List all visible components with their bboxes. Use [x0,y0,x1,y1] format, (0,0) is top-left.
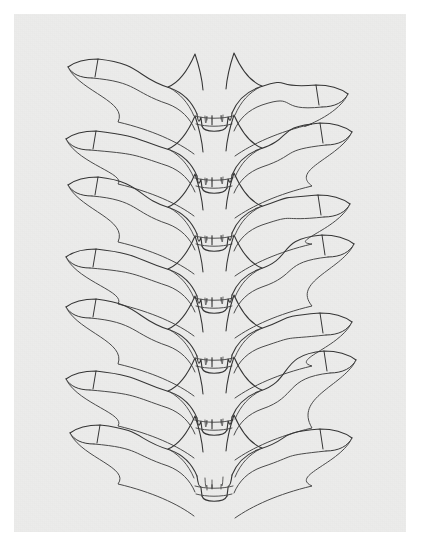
right-transverse-process-superior-edge [232,351,356,417]
left-transverse-process-tip-fold [93,299,96,317]
right-transverse-process-mid-edge [234,101,322,131]
left-transverse-process-inferior-edge [69,187,194,274]
spinous-process-ridge-left [205,116,207,123]
spinous-process-ridge-right [221,177,223,184]
vertebrae-group [66,53,356,518]
right-transverse-process-tip-fold [324,351,327,371]
spinous-process-ridge-left [205,178,207,185]
spinous-process-ridge-left [205,298,207,305]
left-transverse-process-tip-fold [95,177,98,195]
right-transverse-process-tip-fold [318,195,321,215]
right-transverse-process-inferior-edge [235,362,355,460]
right-transverse-process-inferior-edge [235,324,351,398]
left-transverse-process-inferior-edge [67,309,194,396]
right-transverse-process-superior-edge [232,235,354,295]
right-transverse-process-superior-edge [232,82,348,113]
right-transverse-process-tip-fold [320,123,323,143]
left-transverse-process-tip-fold [95,59,98,77]
scanned-paper-sheet [14,14,406,532]
right-transverse-process-mid-edge [234,373,330,435]
right-transverse-process-mid-edge [234,217,324,251]
left-transverse-process-superior-edge [66,131,197,176]
superior-articular-facet-left [168,54,203,90]
superior-articular-facet-right [226,357,262,393]
left-transverse-process-superior-edge [70,425,197,476]
spinous-process-right-wall [227,475,232,496]
right-transverse-process-tip-fold [322,235,325,255]
superior-articular-facet-left [168,116,203,152]
right-transverse-process-mid-edge [234,451,326,493]
right-transverse-process-inferior-edge [235,134,351,218]
superior-articular-facet-left [168,358,203,394]
left-transverse-process-superior-edge [66,249,197,296]
left-transverse-process-mid-edge [92,196,195,250]
left-transverse-process-mid-edge [94,444,195,492]
left-transverse-process-inferior-edge [69,69,194,154]
left-transverse-process-tip-fold [97,425,100,443]
right-transverse-process-superior-edge [232,123,352,175]
vertebral-column-drawing [14,14,406,532]
right-transverse-process-tip-fold [320,313,323,333]
spinous-process-ridge-right [221,115,223,122]
left-transverse-process-tip-fold [93,131,96,149]
left-transverse-process-tip-fold [93,371,96,389]
right-transverse-process-tip-fold [320,429,323,449]
left-transverse-process-superior-edge [66,371,197,418]
spinous-process-ridge-right [221,357,223,364]
spinous-process-ridge-left [205,236,207,243]
spinous-process-ridge-right [221,235,223,242]
screenshot-canvas: Stacked vertebrae line drawing [0,0,423,559]
left-transverse-process-inferior-edge [71,435,194,516]
spinous-process-ridge-right [221,419,223,426]
right-transverse-process-superior-edge [232,429,352,475]
right-transverse-process-inferior-edge [235,246,353,338]
superior-articular-facet-right [226,115,262,151]
superior-articular-facet-right [226,235,262,271]
spinous-process-ridge-left [205,420,207,427]
left-transverse-process-tip-fold [93,249,96,267]
spinous-process-ridge-right [221,477,223,489]
superior-articular-facet-left [168,236,203,272]
spinous-process-left-wall [197,476,202,496]
right-transverse-process-mid-edge [234,335,326,373]
right-transverse-process-tip-fold [316,85,319,105]
right-transverse-process-mid-edge [234,257,328,313]
superior-articular-facet-right [226,53,262,89]
spinous-process-ridge-right [221,297,223,304]
left-transverse-process-inferior-edge [67,381,194,458]
left-transverse-process-mid-edge [92,78,195,130]
spinous-process-ridge-left [205,358,207,365]
